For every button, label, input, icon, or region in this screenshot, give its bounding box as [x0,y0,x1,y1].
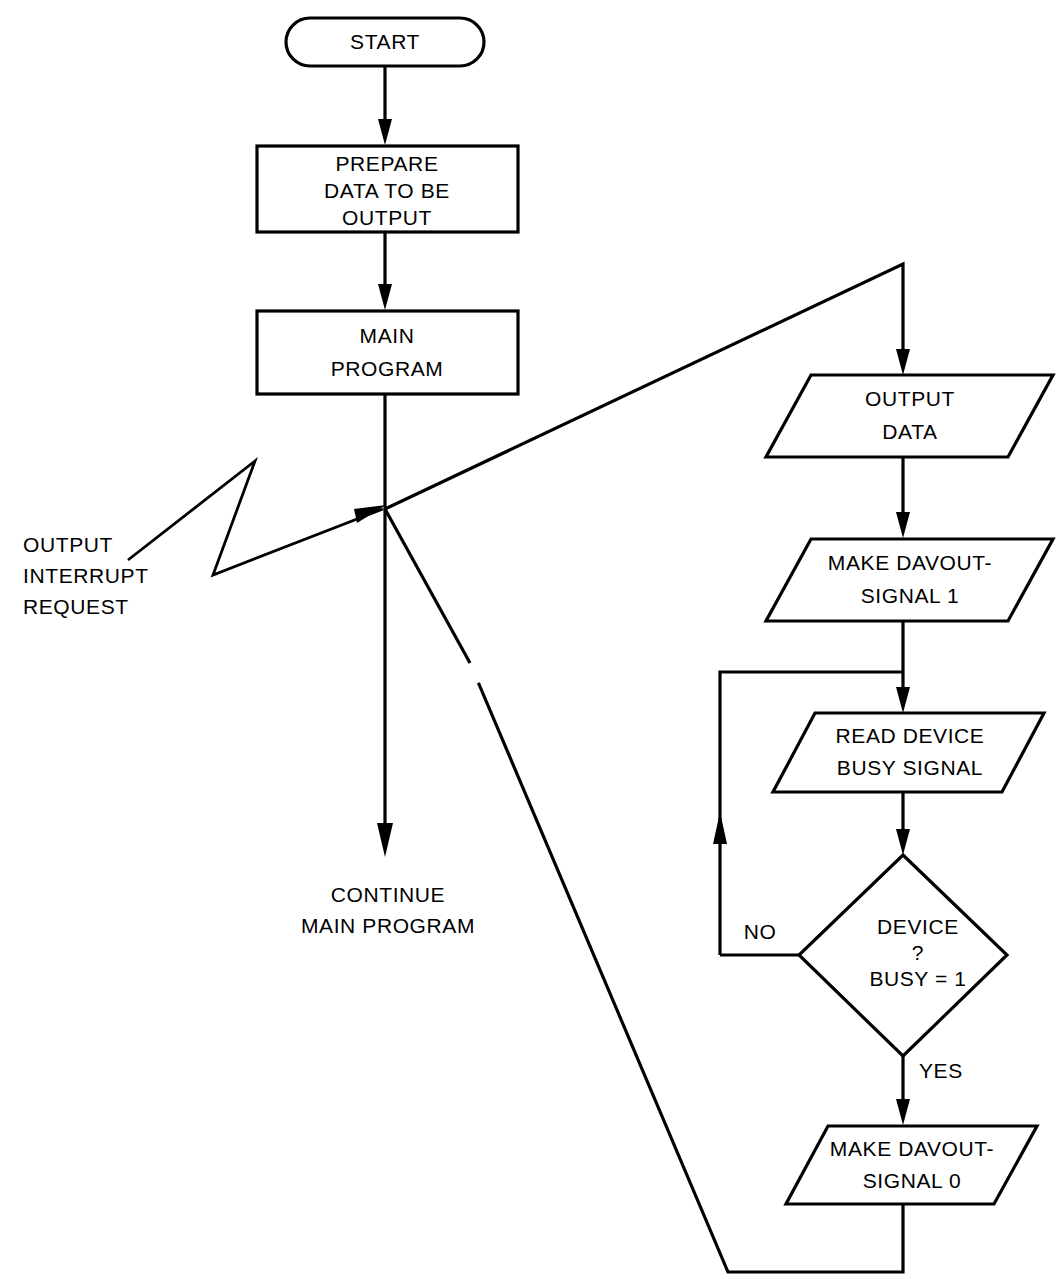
node-prepare-line2: DATA TO BE [324,179,450,202]
arrowhead-main-program [378,284,392,310]
node-make-davout0-line2: SIGNAL 0 [863,1169,962,1192]
annotation-continue-line1: CONTINUE [331,883,445,906]
annotation-interrupt-line2: INTERRUPT [23,564,149,587]
node-decision-line1: DEVICE [877,915,959,938]
node-decision-line3: BUSY = 1 [869,967,966,990]
node-prepare-line1: PREPARE [335,152,438,175]
node-make-davout1-line2: SIGNAL 1 [861,584,960,607]
node-prepare-line3: OUTPUT [342,206,432,229]
node-main-program-line2: PROGRAM [331,357,444,380]
edge-return-upper-segment [385,509,470,663]
interrupt-lightning-bolt [128,461,383,575]
annotation-continue-line2: MAIN PROGRAM [301,914,475,937]
arrowhead-davout1 [896,512,910,538]
node-main-program-line1: MAIN [360,324,415,347]
flowchart-canvas: START PREPARE DATA TO BE OUTPUT MAIN PRO… [0,0,1063,1279]
arrowhead-prepare [378,119,392,145]
edge-label-no: NO [744,920,777,943]
node-make-davout0-line1: MAKE DAVOUT- [830,1137,994,1160]
node-start-label: START [350,30,420,53]
arrowhead-output-data [896,349,910,375]
node-output-data-line2: DATA [882,420,937,443]
node-decision-line2: ? [912,941,924,964]
node-device-busy-decision-shape [799,855,1007,1056]
annotation-interrupt-line3: REQUEST [23,595,129,618]
arrowhead-davout0 [896,1099,910,1125]
arrowhead-no-loop-up [713,812,727,844]
arrowhead-continue-main [377,823,393,857]
node-output-data-line1: OUTPUT [865,387,955,410]
arrowhead-decision [896,829,910,855]
node-read-device-line2: BUSY SIGNAL [837,756,983,779]
flowchart-svg: START PREPARE DATA TO BE OUTPUT MAIN PRO… [0,0,1063,1279]
arrowhead-read-device [896,687,910,713]
node-read-device-line1: READ DEVICE [836,724,985,747]
edge-label-yes: YES [919,1059,963,1082]
arrowhead-interrupt-junction [354,505,386,523]
node-make-davout1-line1: MAKE DAVOUT- [828,551,992,574]
annotation-interrupt-line1: OUTPUT [23,533,113,556]
